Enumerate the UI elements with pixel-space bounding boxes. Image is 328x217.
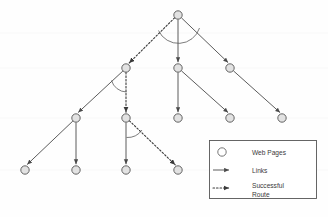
- node-l3-a[interactable]: [21, 166, 29, 174]
- node-l1-left[interactable]: [122, 64, 130, 72]
- node-l1-mid[interactable]: [174, 64, 182, 72]
- node-l3-c[interactable]: [122, 166, 130, 174]
- node-l2-e[interactable]: [278, 114, 286, 122]
- node-root[interactable]: [174, 11, 182, 19]
- node-l3-d[interactable]: [174, 166, 182, 174]
- legend-successful-route-label-line2: Route: [252, 191, 270, 198]
- node-l2-d[interactable]: [226, 114, 234, 122]
- node-l2-c[interactable]: [174, 114, 182, 122]
- tree-diagram-figure: Web Pages Links Successful Route: [0, 0, 328, 217]
- legend-successful-route-label-line1: Successful: [252, 182, 284, 189]
- legend-web-pages-label: Web Pages: [252, 149, 287, 157]
- diagram-canvas: Web Pages Links Successful Route: [0, 0, 328, 217]
- node-l2-b[interactable]: [122, 114, 130, 122]
- node-l2-a[interactable]: [72, 114, 80, 122]
- legend: Web Pages Links Successful Route: [210, 141, 317, 199]
- node-l1-right[interactable]: [226, 64, 234, 72]
- legend-links-label: Links: [252, 167, 268, 174]
- legend-web-pages-icon: [218, 148, 226, 156]
- node-l3-b[interactable]: [72, 166, 80, 174]
